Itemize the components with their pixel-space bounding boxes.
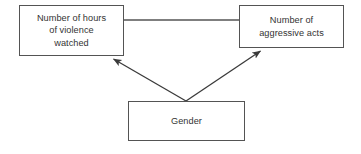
node-label: Gender [168,115,205,127]
node-gender: Gender [128,101,245,141]
path-diagram: Number of hours of violence watched Numb… [0,0,361,154]
edge-gender-to-violence [114,59,187,101]
node-number-of-aggressive-acts: Number of aggressive acts [239,5,344,48]
node-label: Number of aggressive acts [256,14,327,39]
edge-gender-to-aggression [186,51,261,101]
node-label: Number of hours of violence watched [34,12,109,49]
node-hours-of-violence-watched: Number of hours of violence watched [19,5,124,56]
